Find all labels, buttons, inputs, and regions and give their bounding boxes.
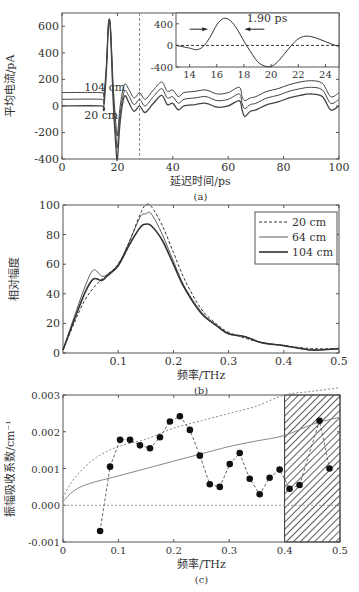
x-tick-label: 0.2	[166, 545, 182, 556]
x-tick-label: 0.3	[221, 545, 237, 556]
distance-label: 104 cm	[84, 81, 126, 94]
y-tick-label: 0.001	[31, 464, 60, 475]
x-tick-label: 0.1	[109, 355, 127, 368]
data-point	[216, 484, 223, 491]
y-tick-label: 100	[39, 199, 60, 212]
data-point	[117, 437, 124, 444]
data-point	[187, 427, 194, 434]
data-point	[246, 475, 253, 482]
y-tick-label: 200	[38, 73, 59, 86]
y-tick-label: 60	[46, 258, 60, 271]
panel-caption: (b)	[194, 385, 208, 396]
data-point	[167, 418, 174, 425]
y-tick-label: 600	[38, 20, 59, 33]
y-tick-label: 0.003	[31, 390, 60, 401]
y-axis-label: 振幅吸收系数/cm⁻¹	[3, 420, 17, 517]
x-tick-label: 0.3	[220, 355, 238, 368]
data-point	[326, 465, 333, 472]
legend-label: 104 cm	[292, 246, 334, 259]
y-tick-label: 20	[46, 317, 60, 330]
x-tick-label: 0.5	[332, 545, 348, 556]
y-axis-label: 相对幅度	[7, 257, 21, 301]
data-point	[127, 437, 134, 444]
inset-x-tick-label: 18	[238, 69, 251, 80]
data-point	[197, 452, 204, 459]
legend-label: 20 cm	[292, 216, 327, 229]
data-point	[107, 463, 114, 470]
x-tick-label: 100	[329, 161, 350, 174]
data-point	[266, 474, 273, 481]
x-tick-label: 0	[59, 161, 66, 174]
inset-y-tick-label: 0	[167, 40, 173, 51]
x-axis-label: 频率/THz	[177, 557, 226, 571]
panel-caption: (c)	[195, 574, 209, 585]
y-tick-label: 0	[52, 100, 59, 113]
x-tick-label: 20	[110, 161, 124, 174]
x-tick-label: 0.5	[330, 355, 348, 368]
x-axis-label: 延迟时间/ps	[170, 175, 231, 188]
panel-c-absorption-coefficient: 00.10.20.30.40.5-0.0010.0000.0010.0020.0…	[3, 388, 348, 585]
y-tick-label: 40	[46, 288, 60, 301]
y-tick-label: 0.002	[31, 427, 60, 438]
y-tick-label: 80	[46, 229, 60, 242]
x-tick-label: 0.4	[277, 545, 293, 556]
legend-label: 64 cm	[292, 231, 327, 244]
data-point	[137, 442, 144, 449]
data-point	[256, 491, 263, 498]
x-tick-label: 0	[60, 545, 66, 556]
inset-x-tick-label: 22	[292, 69, 305, 80]
data-point	[177, 413, 184, 420]
panel-b-relative-amplitude: 0.10.20.30.40.5020406080100频率/THz相对幅度(b)…	[7, 199, 348, 396]
y-tick-label: -0.001	[28, 537, 60, 548]
data-point	[276, 466, 283, 473]
y-tick-label: 0.000	[31, 500, 60, 511]
y-tick-label: -400	[34, 153, 59, 166]
y-tick-label: 400	[38, 47, 59, 60]
x-tick-label: 0.1	[110, 545, 126, 556]
data-point	[316, 417, 323, 424]
inset-x-tick-label: 24	[319, 69, 332, 80]
x-tick-label: 0.4	[275, 355, 293, 368]
y-axis-label: 平均电流/pA	[3, 54, 17, 118]
data-point	[286, 485, 293, 492]
x-tick-label: 60	[221, 161, 235, 174]
panel-caption: (a)	[194, 191, 208, 202]
panel-a-current-vs-delay: 020406080100-400-2000200400600延迟时间/ps平均电…	[3, 12, 350, 202]
x-tick-label: 80	[277, 161, 291, 174]
pulse-width-label: 1.90 ps	[247, 12, 288, 25]
data-point	[147, 445, 154, 452]
inset-x-tick-label: 14	[183, 69, 196, 80]
inset-x-tick-label: 16	[210, 69, 223, 80]
y-tick-label: -200	[34, 126, 59, 139]
inset-x-tick-label: 20	[265, 69, 278, 80]
data-point	[296, 482, 303, 489]
figure: 020406080100-400-2000200400600延迟时间/ps平均电…	[0, 0, 359, 592]
data-point	[97, 528, 104, 535]
x-tick-label: 0.2	[165, 355, 183, 368]
inset-y-tick-label: -400	[151, 62, 173, 73]
legend: 20 cm64 cm104 cm	[255, 212, 337, 264]
data-point	[157, 434, 164, 441]
x-tick-label: 40	[166, 161, 180, 174]
distance-label: 20 cm	[84, 109, 119, 122]
inset-y-tick-label: 400	[154, 19, 173, 30]
data-point	[226, 461, 233, 468]
data-point	[236, 450, 243, 457]
y-tick-label: 0	[53, 347, 60, 360]
x-axis-label: 频率/THz	[177, 368, 226, 382]
data-point	[207, 481, 214, 488]
